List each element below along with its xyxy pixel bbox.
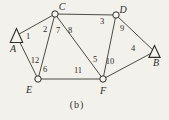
corner-label-9: 9 bbox=[120, 23, 124, 33]
node-label-A: A bbox=[9, 43, 17, 54]
corner-label-8: 8 bbox=[68, 25, 72, 35]
graph-figure: ABCDEF127839451011126 (b) bbox=[0, 0, 169, 120]
corner-label-10: 10 bbox=[106, 56, 115, 66]
node-label-E: E bbox=[25, 84, 32, 95]
corner-label-5: 5 bbox=[93, 54, 97, 64]
corner-label-7: 7 bbox=[56, 25, 60, 35]
corner-label-6: 6 bbox=[43, 64, 47, 74]
node-label-D: D bbox=[118, 4, 127, 15]
corner-label-1: 1 bbox=[26, 31, 30, 41]
node-label-F: F bbox=[99, 85, 107, 96]
corner-label-4: 4 bbox=[131, 43, 136, 53]
node-label-B: B bbox=[153, 57, 159, 68]
node-E bbox=[35, 76, 41, 82]
node-D bbox=[113, 12, 119, 18]
node-label-C: C bbox=[59, 1, 66, 12]
node-C bbox=[52, 11, 58, 17]
corner-label-2: 2 bbox=[43, 24, 47, 34]
edge-C-D bbox=[55, 14, 116, 15]
edge-D-B bbox=[116, 15, 155, 52]
corner-label-12: 12 bbox=[31, 55, 40, 65]
node-A bbox=[10, 29, 22, 43]
node-F bbox=[100, 76, 106, 82]
corner-label-11: 11 bbox=[74, 65, 82, 75]
edge-D-F bbox=[103, 15, 116, 79]
corner-label-3: 3 bbox=[100, 16, 104, 26]
edge-A-C bbox=[17, 14, 56, 36]
figure-caption: (b) bbox=[70, 99, 85, 110]
